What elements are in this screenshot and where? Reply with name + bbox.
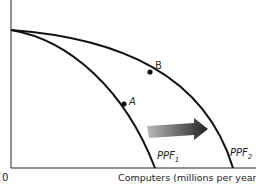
ppf-chart: A B PPF1 PPF2 0 Computers (millions per … bbox=[0, 0, 256, 185]
point-a-marker bbox=[121, 101, 126, 106]
ppf1-text: PPF bbox=[157, 150, 175, 161]
chart-plot bbox=[0, 0, 256, 185]
point-b-label: B bbox=[155, 60, 162, 71]
x-axis-label: Computers (millions per year) bbox=[118, 172, 256, 183]
ppf2-label: PPF2 bbox=[230, 147, 252, 161]
ppf1-subscript: 1 bbox=[175, 156, 179, 164]
point-a-label: A bbox=[129, 96, 136, 107]
ppf2-curve bbox=[11, 30, 233, 168]
shift-arrow-icon bbox=[147, 118, 208, 140]
ppf2-subscript: 2 bbox=[248, 153, 252, 161]
origin-label: 0 bbox=[2, 172, 8, 183]
ppf1-label: PPF1 bbox=[157, 150, 179, 164]
ppf2-text: PPF bbox=[230, 147, 248, 158]
point-b-marker bbox=[147, 69, 152, 74]
